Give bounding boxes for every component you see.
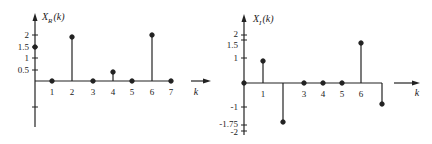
y-tick-label: 2 [25,30,30,40]
x-axis-arrow-icon [412,81,420,86]
y-tick-label: 1.5 [18,42,30,52]
plot-xi [241,14,420,135]
x-tick-label: 5 [130,87,135,97]
y-axis-arrow-icon [33,13,38,21]
data-point [130,79,134,83]
y-tick-label: 1 [234,53,239,63]
data-point [70,35,74,39]
x-tick-label: 5 [340,89,345,99]
x-tick-label: 4 [111,87,116,97]
data-point [302,81,306,85]
y-axis-arrow-icon [242,14,247,22]
x-axis-title: k [415,87,420,98]
x-tick-label: 3 [91,87,96,97]
y-tick-label: 1 [25,53,30,63]
x-axis-title: k [194,86,199,97]
data-point [380,102,384,106]
data-point [242,81,246,85]
y-tick-label: 0.5 [18,65,30,75]
x-tick-label: 7 [169,87,174,97]
data-point [150,33,154,37]
x-tick-label: 6 [150,87,155,97]
x-tick-label: 3 [302,89,307,99]
x-axis-arrow-icon [203,79,211,84]
data-point [169,79,173,83]
x-tick-label: 2 [70,87,75,97]
y-tick-label: 2 [234,29,239,39]
data-point [91,79,95,83]
data-point [340,81,344,85]
data-point [50,79,54,83]
x-tick-label: 6 [359,89,364,99]
stem-plots: XR(k) 2 1.5 1 0.5 1 2 3 4 5 6 7 k [0,0,432,144]
data-point [281,120,285,124]
x-tick-label: 1 [261,89,266,99]
data-point [111,70,115,74]
y-axis-title-xr: XR(k) [41,11,65,25]
plot-xr [32,13,211,127]
x-tick-label: 4 [321,89,326,99]
y-tick-label: -1 [231,102,239,112]
y-tick-label: 1.5 [227,40,239,50]
data-point [359,41,363,45]
data-point [33,45,37,49]
data-point [321,81,325,85]
data-point [261,59,265,63]
y-axis-title-xi: XI(k) [252,13,274,27]
y-tick-label: -2 [231,127,239,137]
x-tick-label: 1 [50,87,55,97]
